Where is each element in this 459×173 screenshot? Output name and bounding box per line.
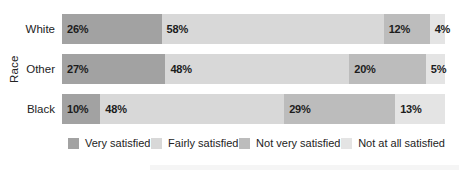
bar-segment: 20%	[349, 54, 426, 84]
stacked-bar: 10%48%29%13%	[62, 94, 445, 124]
legend-item: Not very satisfied	[239, 137, 340, 149]
bar-segment: 5%	[426, 54, 445, 84]
bar-segment: 48%	[100, 94, 284, 124]
chart-row: Other27%48%20%5%	[0, 54, 445, 84]
value-label: 5%	[426, 54, 447, 84]
stacked-bar-chart: Race White26%58%12%4%Other27%48%20%5%Bla…	[0, 0, 459, 173]
stacked-bar: 27%48%20%5%	[62, 54, 445, 84]
legend-swatch	[151, 138, 162, 149]
legend-swatch	[68, 138, 79, 149]
scan-artifact-band	[150, 165, 459, 170]
bar-segment: 12%	[384, 14, 430, 44]
bar-segment: 10%	[62, 94, 100, 124]
bar-segment: 26%	[62, 14, 162, 44]
y-axis-label: Race	[8, 14, 20, 124]
legend-item: Not at all satisfied	[341, 137, 445, 149]
legend-label: Fairly satisfied	[168, 137, 238, 149]
legend-swatch	[341, 138, 352, 149]
legend-label: Very satisfied	[85, 137, 150, 149]
legend-label: Not at all satisfied	[358, 137, 445, 149]
value-label: 26%	[62, 14, 88, 44]
value-label: 29%	[284, 94, 310, 124]
chart-row: Black10%48%29%13%	[0, 94, 445, 124]
value-label: 10%	[62, 94, 88, 124]
bar-segment: 58%	[162, 14, 384, 44]
legend-item: Fairly satisfied	[151, 137, 238, 149]
stacked-bar: 26%58%12%4%	[62, 14, 445, 44]
bar-segment: 27%	[62, 54, 165, 84]
value-label: 4%	[430, 14, 451, 44]
chart-rows: White26%58%12%4%Other27%48%20%5%Black10%…	[0, 14, 445, 124]
value-label: 12%	[384, 14, 410, 44]
legend-item: Very satisfied	[68, 137, 150, 149]
bar-segment: 29%	[284, 94, 395, 124]
value-label: 48%	[165, 54, 191, 84]
value-label: 27%	[62, 54, 88, 84]
legend-label: Not very satisfied	[256, 137, 340, 149]
value-label: 58%	[162, 14, 188, 44]
bar-segment: 13%	[395, 94, 445, 124]
bar-segment: 48%	[165, 54, 349, 84]
chart-legend: Very satisfiedFairly satisfiedNot very s…	[68, 137, 445, 149]
value-label: 48%	[100, 94, 126, 124]
bar-segment: 4%	[430, 14, 445, 44]
chart-row: White26%58%12%4%	[0, 14, 445, 44]
legend-swatch	[239, 138, 250, 149]
value-label: 13%	[395, 94, 421, 124]
value-label: 20%	[349, 54, 375, 84]
